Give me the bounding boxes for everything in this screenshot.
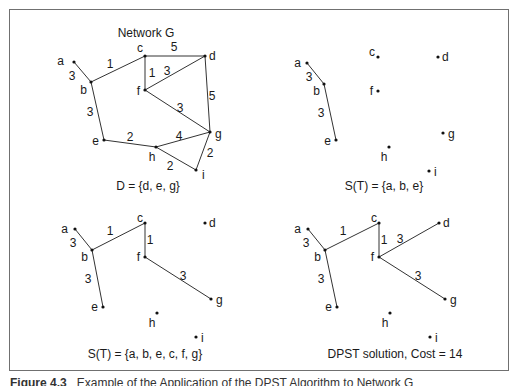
panel-dpst-solution: 311333abcdfgehiDPST solution, Cost = 14 <box>294 211 462 361</box>
node-label-b: b <box>81 250 88 264</box>
node-label-c: c <box>137 41 143 55</box>
node-b <box>89 80 92 83</box>
panel-st-abe: 33abcdfgehiS(T) = {a, b, e} <box>294 45 454 193</box>
edge-weight-b-e: 3 <box>87 105 94 119</box>
node-e <box>101 305 104 308</box>
node-label-b: b <box>314 250 321 264</box>
node-label-i: i <box>201 331 204 345</box>
edge-weight-d-g: 5 <box>209 89 216 103</box>
edge-a-b <box>75 229 92 250</box>
node-f <box>143 88 146 91</box>
node-label-g: g <box>215 127 222 141</box>
panel-caption: D = {d, e, g} <box>116 179 180 193</box>
node-label-c: c <box>369 45 375 59</box>
edge-weight-f-g: 3 <box>180 269 187 283</box>
node-i <box>427 169 430 172</box>
edge-a-b <box>74 62 91 82</box>
node-d <box>437 221 440 224</box>
node-f <box>377 255 380 258</box>
node-g <box>441 131 444 134</box>
edge-weight-e-h: 2 <box>127 130 134 144</box>
edge-b-e <box>92 250 103 307</box>
edge-weight-c-f: 1 <box>147 233 154 247</box>
panel-caption: DPST solution, Cost = 14 <box>328 347 463 361</box>
edge-f-g <box>379 257 445 299</box>
node-label-b: b <box>80 83 87 97</box>
edge-weight-b-e: 3 <box>85 272 92 286</box>
edge-b-c <box>91 56 145 82</box>
node-label-a: a <box>294 222 301 236</box>
node-h <box>387 145 390 148</box>
edge-f-g <box>145 257 211 299</box>
figure-caption: Figure 4.3 Example of the Application of… <box>10 376 413 386</box>
node-label-i: i <box>434 165 437 179</box>
edge-weight-c-f: 1 <box>149 66 156 80</box>
edge-weight-c-f: 1 <box>381 233 388 247</box>
node-d <box>203 54 206 57</box>
node-label-f: f <box>137 250 141 264</box>
node-label-g: g <box>448 127 455 141</box>
edge-weight-a-b: 3 <box>70 236 77 250</box>
node-c <box>143 221 146 224</box>
edge-weight-b-c: 1 <box>340 224 347 238</box>
node-label-f: f <box>137 84 141 98</box>
node-label-g: g <box>450 293 457 307</box>
node-label-e: e <box>92 134 99 148</box>
panel-title: Network G <box>118 26 175 40</box>
node-label-a: a <box>57 54 64 68</box>
edge-weight-h-g: 4 <box>176 129 183 143</box>
edge-weight-f-d: 3 <box>397 232 404 246</box>
edge-b-e <box>325 250 337 307</box>
edge-weight-b-e: 3 <box>318 106 325 120</box>
edge-weight-f-g: 3 <box>177 101 184 115</box>
node-label-h: h <box>382 316 389 330</box>
node-i <box>428 335 431 338</box>
edge-weight-f-d: 3 <box>164 64 171 78</box>
edge-h-i <box>156 147 196 170</box>
node-label-c: c <box>371 211 377 225</box>
node-h <box>155 311 158 314</box>
node-label-c: c <box>137 211 143 225</box>
network-diagram: 315135332422abcdfgehiNetwork GD = {d, e,… <box>0 0 517 386</box>
node-b <box>323 248 326 251</box>
node-label-a: a <box>61 222 68 236</box>
node-label-g: g <box>216 293 223 307</box>
figure-caption-label: Figure 4.3 <box>10 376 67 386</box>
edge-f-d <box>379 223 439 257</box>
node-g <box>208 130 211 133</box>
edge-weight-b-e: 3 <box>318 272 325 286</box>
node-h <box>154 145 157 148</box>
edge-weight-a-b: 3 <box>306 70 313 84</box>
node-label-a: a <box>294 56 301 70</box>
node-label-d: d <box>209 49 216 63</box>
node-g <box>443 297 446 300</box>
node-label-f: f <box>371 250 375 264</box>
node-label-d: d <box>209 216 216 230</box>
node-label-e: e <box>325 300 332 314</box>
edge-b-e <box>324 84 336 140</box>
node-label-f: f <box>370 84 374 98</box>
node-d <box>203 221 206 224</box>
node-a <box>73 227 76 230</box>
node-i <box>194 168 197 171</box>
node-label-h: h <box>381 150 388 164</box>
node-label-e: e <box>324 134 331 148</box>
node-g <box>209 297 212 300</box>
edge-weight-g-i: 2 <box>207 146 214 160</box>
node-c <box>377 221 380 224</box>
node-e <box>335 305 338 308</box>
node-h <box>388 311 391 314</box>
panel-st-abecfg: 31133abcdfgehiS(T) = {a, b, e, c, f, g} <box>61 211 222 361</box>
figure-caption-text: Example of the Application of the DPST A… <box>77 376 414 386</box>
node-e <box>334 138 337 141</box>
node-label-b: b <box>313 84 320 98</box>
node-label-i: i <box>202 168 205 182</box>
edge-weight-b-c: 1 <box>107 57 114 71</box>
node-label-i: i <box>435 331 438 345</box>
node-a <box>305 61 308 64</box>
edge-weight-a-b: 3 <box>303 236 310 250</box>
node-b <box>90 248 93 251</box>
node-d <box>436 55 439 58</box>
node-label-h: h <box>149 316 156 330</box>
figure: 315135332422abcdfgehiNetwork GD = {d, e,… <box>0 0 517 386</box>
